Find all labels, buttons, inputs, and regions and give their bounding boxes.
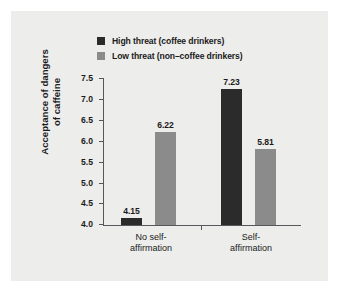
y-axis-tick-label: 7.5: [81, 73, 93, 83]
bar-group-no-self-affirmation: 4.15 6.22 No self- affirmation: [119, 79, 183, 225]
legend-label-high-threat: High threat (coffee drinkers): [112, 36, 224, 46]
y-axis-title-line-1: Acceptance of dangers: [39, 49, 51, 155]
bar-high-threat-no-self-affirmation[interactable]: 4.15: [121, 218, 142, 224]
y-axis-tick-label: 4.0: [81, 219, 93, 229]
y-axis-tick: 7.5: [99, 78, 103, 79]
y-axis-tick: 4.0: [99, 224, 103, 225]
legend-swatch-icon-high-threat: [97, 37, 105, 45]
x-axis-category-label-self-affirmation: Self- affirmation: [230, 232, 272, 255]
y-axis-line: [103, 78, 104, 226]
bar-high-threat-self-affirmation[interactable]: 7.23: [221, 89, 242, 224]
y-axis-title-line-2: of caffeine: [51, 78, 63, 126]
y-axis-tick: 7.0: [99, 99, 103, 100]
legend-label-low-threat: Low threat (non–coffee drinkers): [112, 51, 243, 61]
x-axis-mid-tick: [201, 226, 202, 230]
y-axis-tick: 5.5: [99, 162, 103, 163]
x-axis-line: [103, 225, 301, 226]
category-label-line-2: affirmation: [230, 243, 272, 255]
plot-area: 7.5 7.0 6.5 6.0 5.5 5.0 4.5 4.0 4.15 6.2: [103, 78, 301, 226]
y-axis-tick: 5.0: [99, 183, 103, 184]
y-axis-tick-label: 6.5: [81, 115, 93, 125]
x-axis-category-label-no-self-affirmation: No self- affirmation: [130, 232, 172, 255]
bar-low-threat-self-affirmation[interactable]: 5.81: [255, 149, 276, 225]
y-axis-title: Acceptance of dangers of caffeine: [38, 27, 64, 177]
y-axis-tick-label: 7.0: [81, 94, 93, 104]
y-axis-tick: 6.5: [99, 120, 103, 121]
y-axis-tick-label: 4.5: [81, 198, 93, 208]
category-label-line-1: Self-: [230, 232, 272, 244]
bar-value-label: 7.23: [223, 77, 240, 87]
y-axis-tick-label: 6.0: [81, 136, 93, 146]
category-label-line-2: affirmation: [130, 243, 172, 255]
bar-value-label: 5.81: [257, 137, 274, 147]
bar-value-label: 4.15: [123, 206, 140, 216]
legend-swatch-icon-low-threat: [97, 52, 105, 60]
y-axis-tick-label: 5.5: [81, 157, 93, 167]
chart-figure: High threat (coffee drinkers) Low threat…: [11, 11, 328, 281]
bar-value-label: 6.22: [157, 120, 174, 130]
y-axis-tick-label: 5.0: [81, 178, 93, 188]
legend-item-low-threat: Low threat (non–coffee drinkers): [97, 48, 317, 63]
category-label-line-1: No self-: [130, 232, 172, 244]
bar-group-self-affirmation: 7.23 5.81 Self- affirmation: [219, 79, 283, 225]
y-axis-tick: 4.5: [99, 203, 103, 204]
legend-item-high-threat: High threat (coffee drinkers): [97, 33, 317, 48]
chart-legend: High threat (coffee drinkers) Low threat…: [97, 33, 317, 63]
y-axis-tick: 6.0: [99, 141, 103, 142]
bar-low-threat-no-self-affirmation[interactable]: 6.22: [155, 132, 176, 225]
